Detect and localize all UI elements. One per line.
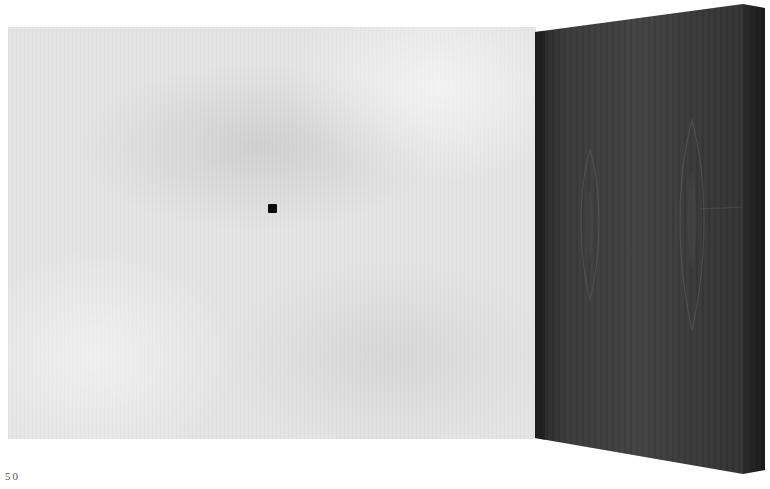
page-number: 50 [5,470,20,482]
wood-slab [0,0,770,489]
